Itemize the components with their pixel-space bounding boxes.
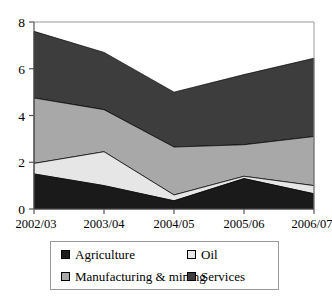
legend-item-services: Services (187, 270, 290, 283)
x-tick-label: 2006/07 (292, 217, 332, 231)
chart-legend: Agriculture Oil Manufacturing & mining S… (50, 241, 279, 290)
legend-swatch-agriculture (61, 250, 70, 259)
legend-label-oil: Oil (201, 248, 218, 261)
legend-item-agriculture: Agriculture (61, 248, 187, 261)
legend-swatch-services (187, 272, 196, 281)
y-tick-label: 8 (18, 15, 25, 30)
legend-item-oil: Oil (187, 248, 290, 261)
x-axis-ticks: 2002/032003/042004/052005/062006/07 (16, 209, 332, 231)
x-tick-label: 2002/03 (16, 217, 57, 231)
y-tick-label: 4 (18, 109, 25, 124)
legend-label-agriculture: Agriculture (75, 248, 135, 261)
legend-label-services: Services (201, 270, 245, 283)
y-axis-ticks: 02468 (18, 15, 34, 217)
x-tick-label: 2003/04 (84, 217, 126, 231)
legend-item-manufacturing-mining: Manufacturing & mining (61, 270, 187, 283)
x-tick-label: 2005/06 (224, 217, 265, 231)
x-tick-label: 2004/05 (154, 217, 195, 231)
y-tick-label: 0 (18, 202, 25, 217)
y-tick-label: 2 (18, 155, 25, 170)
legend-swatch-oil (187, 250, 196, 259)
y-tick-label: 6 (18, 62, 25, 77)
legend-swatch-manufacturing-mining (61, 272, 70, 281)
stacked-area-chart: 024682002/032003/042004/052005/062006/07… (0, 0, 332, 299)
